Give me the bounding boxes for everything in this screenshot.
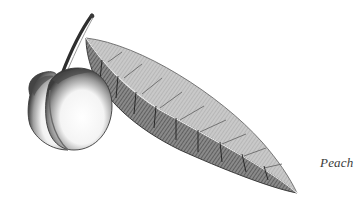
peach-fruit [28,68,112,150]
caption-label: Peach [320,155,353,171]
botanical-plate: Peach [0,0,362,214]
leaf [86,38,297,193]
peach-illustration [0,0,362,214]
